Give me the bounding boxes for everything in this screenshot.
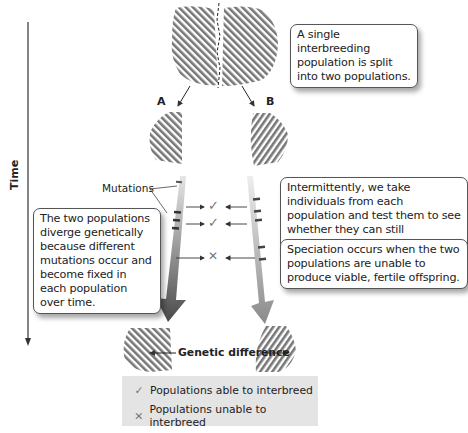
lineage-arrow-b — [247, 176, 274, 324]
legend-label-unable: Populations unable to interbreed — [150, 403, 318, 429]
population-a-blob — [150, 112, 182, 164]
cross-icon: ✕ — [134, 410, 144, 423]
test-result-1: ✓ — [208, 198, 219, 213]
time-axis-label: Time — [8, 160, 21, 190]
population-b-label: B — [266, 95, 274, 108]
population-b-blob — [251, 113, 288, 166]
split-arrow-a — [178, 86, 190, 106]
final-population-a-blob — [124, 328, 172, 372]
population-a-label: A — [157, 95, 166, 108]
callout-diverge: The two populations diverge genetically … — [33, 208, 161, 314]
legend-label-able: Populations able to interbreed — [150, 384, 313, 397]
time-axis — [25, 22, 31, 346]
test-result-2: ✓ — [208, 215, 219, 230]
legend-item-unable: ✕ Populations unable to interbreed — [134, 403, 318, 429]
check-icon: ✓ — [134, 384, 144, 397]
original-population-blob — [172, 3, 278, 88]
test-result-3: ✕ — [208, 249, 218, 263]
callout-speciation: Speciation occurs when the two populatio… — [280, 239, 468, 289]
callout-split: A single interbreeding population is spl… — [290, 24, 418, 88]
genetic-difference-label: Genetic difference — [178, 346, 290, 359]
mutations-label: Mutations — [102, 182, 154, 194]
split-arrow-b — [242, 86, 254, 106]
legend-item-able: ✓ Populations able to interbreed — [134, 384, 313, 397]
legend: ✓ Populations able to interbreed ✕ Popul… — [122, 376, 318, 426]
